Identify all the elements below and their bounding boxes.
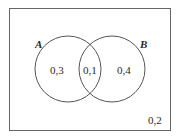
a-only-value: 0,3	[50, 65, 64, 76]
set-b-label: B	[140, 39, 147, 50]
universe-value: 0,2	[148, 115, 162, 126]
set-a-label: A	[35, 39, 42, 50]
intersection-value: 0,1	[83, 65, 97, 76]
b-only-value: 0,4	[117, 65, 131, 76]
